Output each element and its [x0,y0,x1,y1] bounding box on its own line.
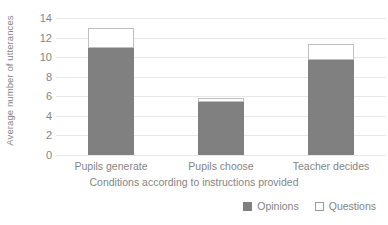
bar-segment-opinions[interactable] [88,48,134,155]
y-tick-label: 10 [20,52,52,63]
y-tick-label: 12 [20,32,52,43]
x-axis-title: Conditions according to instructions pro… [0,176,388,188]
x-axis-category-label: Pupils generate [56,159,166,173]
bar-segment-questions[interactable] [308,44,354,60]
stacked-bar-chart: Average number of utterances 02468101214… [0,0,388,225]
y-axis-tick-labels: 02468101214 [20,11,52,159]
bars-layer [56,18,386,155]
x-axis-category-labels: Pupils generatePupils chooseTeacher deci… [56,159,386,175]
legend-swatch-icon [243,202,252,211]
bar-group[interactable] [88,18,134,155]
legend-item[interactable]: Questions [315,200,376,212]
x-axis-category-label: Teacher decides [276,159,386,173]
legend-label: Questions [329,200,376,212]
y-tick-label: 14 [20,13,52,24]
legend-label: Opinions [257,200,298,212]
plot-area [56,18,386,155]
y-tick-label: 4 [20,110,52,121]
bar-group[interactable] [308,18,354,155]
legend-item[interactable]: Opinions [243,200,298,212]
y-tick-label: 2 [20,130,52,141]
y-axis-title: Average number of utterances [0,0,18,160]
y-tick-label: 8 [20,71,52,82]
legend-swatch-icon [315,202,324,211]
gridline [56,155,386,156]
y-tick-label: 0 [20,150,52,161]
y-tick-label: 6 [20,91,52,102]
bar-segment-opinions[interactable] [308,60,354,155]
bar-segment-opinions[interactable] [198,102,244,155]
x-axis-category-label: Pupils choose [166,159,276,173]
chart-legend: OpinionsQuestions [0,200,388,212]
bar-group[interactable] [198,18,244,155]
bar-segment-questions[interactable] [88,28,134,49]
y-axis-title-text: Average number of utterances [4,15,15,145]
